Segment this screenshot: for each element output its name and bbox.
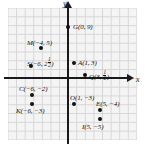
point-label-O-text: O(1, −3) [70, 94, 94, 102]
point-I [98, 117, 102, 121]
x-axis-line [4, 77, 128, 79]
point-label-C: C(−6, −2) [19, 86, 47, 93]
point-C [30, 93, 34, 97]
point-label-A-text: A(1, 3) [78, 59, 97, 67]
point-G [66, 25, 70, 29]
point-label-G: G(0, 9) [73, 24, 93, 31]
point-label-E: E(5, −4) [96, 101, 119, 108]
point-label-A: A(1, 3) [78, 60, 97, 67]
point-label-K: K(−6, −3) [16, 108, 44, 115]
point-label-M-text: M(−4, 5) [27, 39, 52, 47]
point-label-M: M(−4, 5) [27, 40, 52, 47]
point-Q [83, 73, 87, 77]
point-K [30, 102, 34, 106]
point-label-S: S(−6, 212) [27, 57, 53, 68]
point-label-Q-suffix: ) [107, 73, 109, 81]
point-label-C-text: C(−6, −2) [19, 85, 47, 93]
point-label-I: I(5, −5) [82, 124, 103, 131]
point-label-S-suffix: ) [51, 60, 53, 68]
point-A [72, 61, 76, 65]
point-label-Q: Q(3, 12) [89, 70, 109, 81]
point-label-G-text: G(0, 9) [73, 23, 93, 31]
coordinate-plane-figure: x y G(0, 9) M(−4, 5) S(−6, 212) A(1, 3) … [0, 0, 145, 148]
point-O [72, 102, 76, 106]
point-label-E-text: E(5, −4) [96, 100, 119, 108]
point-label-S-text: S(−6, 2 [27, 60, 47, 68]
point-label-K-text: K(−6, −3) [16, 107, 44, 115]
point-label-O: O(1, −3) [70, 95, 94, 102]
x-axis-arrowhead-icon [127, 74, 134, 82]
point-label-Q-text: Q(3, [89, 73, 103, 81]
x-axis-label: x [136, 76, 140, 84]
y-axis-label: y [63, 0, 67, 8]
point-E [98, 108, 102, 112]
point-label-I-text: I(5, −5) [82, 123, 103, 131]
